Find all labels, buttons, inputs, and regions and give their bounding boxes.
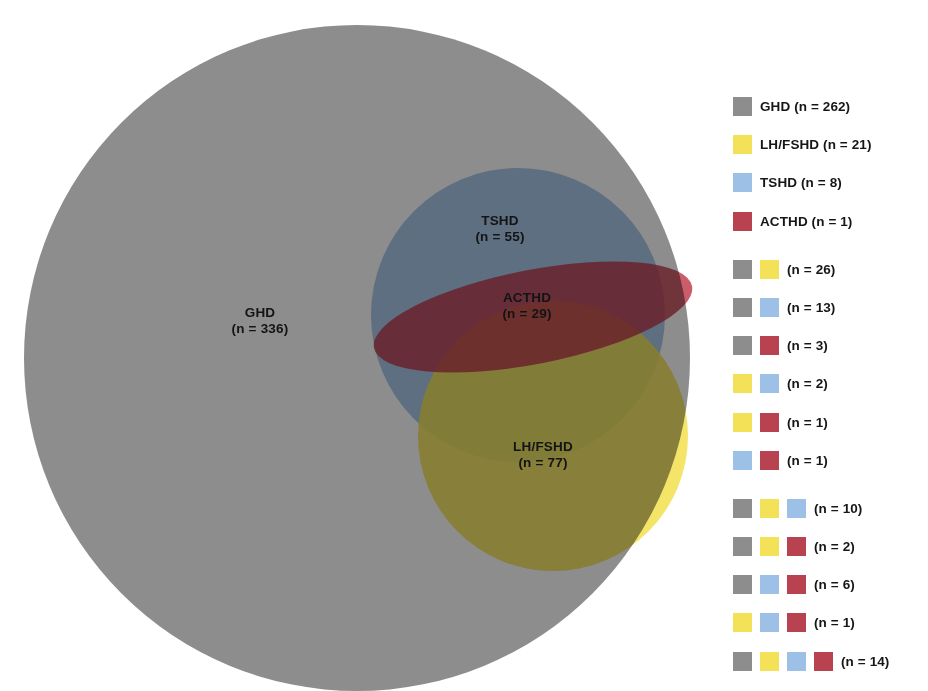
legend-group-spacer (733, 249, 928, 259)
legend-group-spacer (733, 488, 928, 498)
legend-row: ACTHD (n = 1) (733, 211, 928, 232)
legend-label: (n = 2) (787, 376, 828, 391)
legend-row: (n = 10) (733, 498, 928, 519)
legend-swatch-blue (760, 298, 779, 317)
legend-label: LH/FSHD (n = 21) (760, 137, 872, 152)
legend-swatch-yellow (733, 613, 752, 632)
legend-swatch-red (733, 212, 752, 231)
legend-label: (n = 2) (814, 539, 855, 554)
legend-row: TSHD (n = 8) (733, 172, 928, 193)
legend-label: (n = 14) (841, 654, 889, 669)
legend-swatch-yellow (760, 652, 779, 671)
legend-swatch-red (787, 537, 806, 556)
legend: GHD (n = 262)LH/FSHD (n = 21)TSHD (n = 8… (733, 96, 928, 689)
legend-swatch-red (787, 613, 806, 632)
legend-row: GHD (n = 262) (733, 96, 928, 117)
legend-swatch-red (760, 413, 779, 432)
legend-row: (n = 13) (733, 297, 928, 318)
legend-swatch-gray (733, 537, 752, 556)
legend-swatch-gray (733, 652, 752, 671)
legend-label: ACTHD (n = 1) (760, 214, 852, 229)
legend-row: LH/FSHD (n = 21) (733, 134, 928, 155)
legend-label: (n = 1) (814, 615, 855, 630)
legend-swatch-blue (733, 451, 752, 470)
legend-label: (n = 26) (787, 262, 835, 277)
legend-row: (n = 1) (733, 612, 928, 633)
legend-row: (n = 14) (733, 651, 928, 672)
legend-swatch-blue (760, 575, 779, 594)
legend-swatch-blue (760, 613, 779, 632)
legend-row: (n = 26) (733, 259, 928, 280)
venn-shapes (0, 0, 700, 691)
legend-row: (n = 1) (733, 450, 928, 471)
legend-swatch-red (787, 575, 806, 594)
legend-swatch-yellow (760, 260, 779, 279)
legend-swatch-blue (787, 652, 806, 671)
legend-swatch-gray (733, 499, 752, 518)
legend-row: (n = 6) (733, 574, 928, 595)
legend-label: (n = 1) (787, 415, 828, 430)
legend-swatch-yellow (760, 537, 779, 556)
legend-swatch-gray (733, 575, 752, 594)
legend-label: GHD (n = 262) (760, 99, 850, 114)
legend-swatch-gray (733, 298, 752, 317)
legend-swatch-yellow (733, 135, 752, 154)
legend-swatch-gray (733, 260, 752, 279)
legend-swatch-red (814, 652, 833, 671)
legend-row: (n = 3) (733, 335, 928, 356)
legend-swatch-blue (787, 499, 806, 518)
legend-swatch-red (760, 451, 779, 470)
legend-swatch-gray (733, 336, 752, 355)
legend-label: (n = 10) (814, 501, 862, 516)
legend-row: (n = 2) (733, 536, 928, 557)
legend-swatch-yellow (733, 374, 752, 393)
legend-label: TSHD (n = 8) (760, 175, 842, 190)
legend-label: (n = 6) (814, 577, 855, 592)
legend-row: (n = 2) (733, 373, 928, 394)
legend-swatch-gray (733, 97, 752, 116)
legend-label: (n = 3) (787, 338, 828, 353)
legend-swatch-red (760, 336, 779, 355)
legend-swatch-blue (760, 374, 779, 393)
legend-swatch-yellow (733, 413, 752, 432)
legend-row: (n = 1) (733, 412, 928, 433)
legend-label: (n = 13) (787, 300, 835, 315)
legend-label: (n = 1) (787, 453, 828, 468)
legend-swatch-yellow (760, 499, 779, 518)
venn-diagram-figure: GHD (n = 336) TSHD (n = 55) ACTHD (n = 2… (0, 0, 928, 691)
legend-swatch-blue (733, 173, 752, 192)
